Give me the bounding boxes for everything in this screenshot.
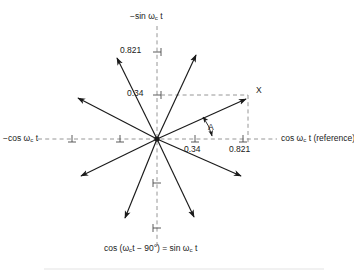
tick-x-neg-0.34	[116, 135, 124, 142]
value-label-horizontal-inner: 0.34	[184, 144, 201, 154]
tick-x-0.34	[191, 135, 199, 142]
value-label-vertical-upper: 0.821	[120, 45, 141, 55]
vector-upper-left-steep	[117, 58, 157, 139]
axis-label-right: cos ωc t (reference)	[281, 134, 354, 144]
tick-x-0.821	[239, 135, 247, 142]
scan-artifact	[44, 268, 324, 270]
vector-lower-left-steep	[125, 139, 157, 218]
tick-x-neg-0.821	[68, 135, 76, 142]
vector-x-resultant	[157, 99, 246, 139]
axis-label-bottom: cos (ωct − 90°) = sin ωc t	[104, 244, 197, 254]
vector-upper-right-steep	[157, 55, 196, 139]
vector-upper-left-shallow	[78, 98, 157, 139]
vector-lower-left-shallow	[81, 139, 157, 176]
phasor-diagram-figure: −sin ωc t −cos ωc t cos ωc t (reference)…	[0, 0, 354, 273]
axis-label-left: −cos ωc t	[3, 134, 38, 144]
origin-point	[154, 136, 159, 141]
phasor-vector-group	[78, 55, 246, 218]
angle-label-a: A	[208, 122, 214, 132]
value-label-horizontal-outer: 0.821	[229, 144, 250, 154]
value-label-vertical-lower: 0.34	[127, 88, 144, 98]
tip-label-x: X	[256, 85, 262, 95]
axis-label-top: −sin ωc t	[130, 12, 163, 22]
